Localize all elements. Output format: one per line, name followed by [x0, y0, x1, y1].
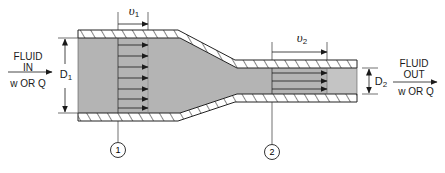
inlet-label-line2: IN: [2, 62, 54, 73]
section-2-marker: 2: [264, 144, 280, 160]
diameter-2-symbol: D: [375, 75, 383, 87]
inlet-flow-label: w OR Q: [4, 78, 52, 89]
inlet-label-line1: FLUID: [2, 51, 54, 62]
diameter-2-label: D2: [372, 76, 390, 90]
diameter-1-symbol: D: [60, 68, 68, 80]
outlet-label: FLUID OUT: [390, 58, 438, 80]
outlet-tail-fluid: [327, 68, 357, 94]
diameter-2-subscript: 2: [383, 80, 387, 89]
outlet-flow-label: w OR Q: [392, 86, 440, 97]
velocity-1-subscript: 1: [135, 10, 139, 19]
velocity-1-label: υ1: [122, 5, 146, 20]
inlet-label: FLUID IN: [2, 51, 54, 73]
section-1-marker: 1: [110, 142, 126, 158]
diameter-1-label: D1: [57, 69, 75, 83]
outlet-label-line2: OUT: [390, 69, 438, 80]
velocity-2-label: υ2: [290, 32, 314, 47]
velocity-2-subscript: 2: [303, 37, 307, 46]
diameter-1-subscript: 1: [68, 73, 72, 82]
outlet-label-line1: FLUID: [390, 58, 438, 69]
